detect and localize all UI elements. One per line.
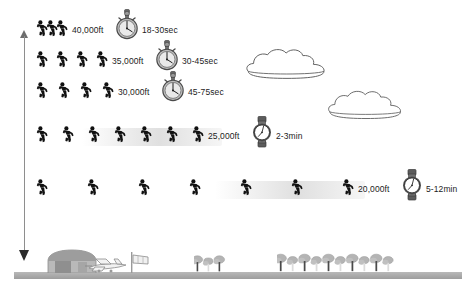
airplane-icon [83, 258, 129, 277]
skydiver-freefall-icon [76, 51, 89, 68]
skydiver-freefall-icon [96, 51, 109, 68]
stopwatch-icon [114, 9, 140, 41]
altitude-row-20000: 20,000ft 5-12min [0, 179, 475, 203]
freefall-time-label: 2-3min [276, 131, 303, 141]
freefall-time-label: 45-75sec [188, 87, 224, 97]
skydiver-freefall-icon [62, 126, 75, 143]
skydiver-freefall-icon [87, 179, 100, 196]
skydiver-freefall-icon [36, 82, 49, 99]
altitude-label: 20,000ft [358, 184, 390, 194]
skydiver-freefall-icon [80, 82, 93, 99]
skydiver-freefall-icon [240, 179, 253, 196]
altitude-label: 30,000ft [118, 87, 150, 97]
skydiver-freefall-icon [36, 126, 49, 143]
skydiver-freefall-icon [140, 126, 153, 143]
wristwatch-icon [250, 116, 274, 150]
axis-arrowhead-down [19, 250, 29, 261]
skydiver-freefall-icon [189, 179, 202, 196]
altitude-row-35000: 35,000ft 30-45sec [0, 51, 475, 75]
skydiver-freefall-icon [166, 126, 179, 143]
freefall-time-label: 18-30sec [142, 25, 178, 35]
skydiver-freefall-icon [36, 179, 49, 196]
tree-cluster-left-icon [194, 252, 232, 277]
altitude-label: 25,000ft [208, 131, 240, 141]
skydiver-freefall-icon [114, 126, 127, 143]
altitude-row-40000: 40,000ft 18-30sec [0, 20, 475, 44]
skydiver-freefall-icon [342, 179, 355, 196]
skydiver-freefall-icon [102, 82, 115, 99]
windsock-icon [130, 252, 152, 277]
stopwatch-icon [160, 71, 186, 103]
skydiver-freefall-icon [56, 20, 69, 37]
skydiver-freefall-icon [56, 51, 69, 68]
altitude-row-30000: 30,000ft 45-75sec [0, 82, 475, 106]
skydiver-freefall-icon [291, 179, 304, 196]
freefall-time-label: 5-12min [426, 184, 457, 194]
skydiver-freefall-icon [36, 51, 49, 68]
skydiver-freefall-icon [58, 82, 71, 99]
diagram-canvas: 40,000ft 18-30sec [0, 0, 475, 289]
wristwatch-icon [400, 169, 424, 203]
altitude-label: 40,000ft [72, 25, 104, 35]
tree-cluster-right-icon [277, 250, 402, 277]
skydiver-freefall-icon [192, 126, 205, 143]
skydiver-freefall-icon [88, 126, 101, 143]
skydiver-freefall-icon [138, 179, 151, 196]
freefall-time-label: 30-45sec [182, 56, 218, 66]
stopwatch-icon [154, 40, 180, 72]
altitude-label: 35,000ft [112, 56, 144, 66]
altitude-row-25000: 25,000ft 2-3min [0, 126, 475, 150]
